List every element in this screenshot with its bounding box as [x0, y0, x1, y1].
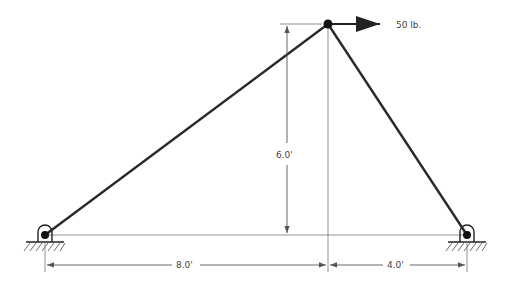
- height-dimension-label: 6.0': [276, 150, 293, 160]
- left-pin-support: [24, 225, 65, 251]
- load-label: 50 lb.: [396, 20, 421, 30]
- member-right: [328, 24, 467, 235]
- truss-diagram: 50 lb. 6.0': [0, 0, 516, 286]
- left-span-label: 8.0': [176, 260, 193, 270]
- apex-joint: [324, 20, 333, 29]
- member-left: [45, 24, 328, 235]
- right-pin-support: [446, 225, 487, 251]
- right-span-label: 4.0': [387, 260, 404, 270]
